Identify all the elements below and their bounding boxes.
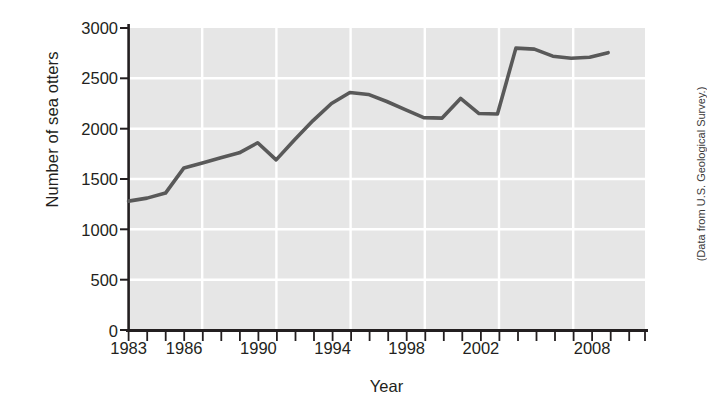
x-tick-label-1986: 1986 [154,339,214,358]
y-tick-label-2000: 2000 [66,121,118,138]
y-axis-title: Number of sea otters [43,20,62,240]
x-tick-label-1994: 1994 [303,339,363,358]
y-tick-label-0: 0 [66,323,118,340]
y-tick-label-2500: 2500 [66,70,118,87]
x-tick-label-2008: 2008 [562,339,622,358]
x-axis-title: Year [128,377,645,396]
y-tick-label-500: 500 [66,272,118,289]
y-tick-label-1000: 1000 [66,222,118,239]
x-tick-label-1990: 1990 [228,339,288,358]
y-tick-label-3000: 3000 [66,20,118,37]
x-tick-label-1983: 1983 [99,339,159,358]
data-source-note: (Data from U.S. Geological Survey.) [695,49,707,299]
y-tick-label-1500: 1500 [66,171,118,188]
x-tick-label-1998: 1998 [377,339,437,358]
x-tick-label-2002: 2002 [451,339,511,358]
